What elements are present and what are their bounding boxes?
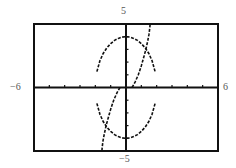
curve-curve-lower-branch — [102, 88, 120, 152]
graph-window — [0, 0, 236, 168]
axes — [34, 24, 218, 151]
curve-curve-upper-branch — [132, 24, 150, 88]
